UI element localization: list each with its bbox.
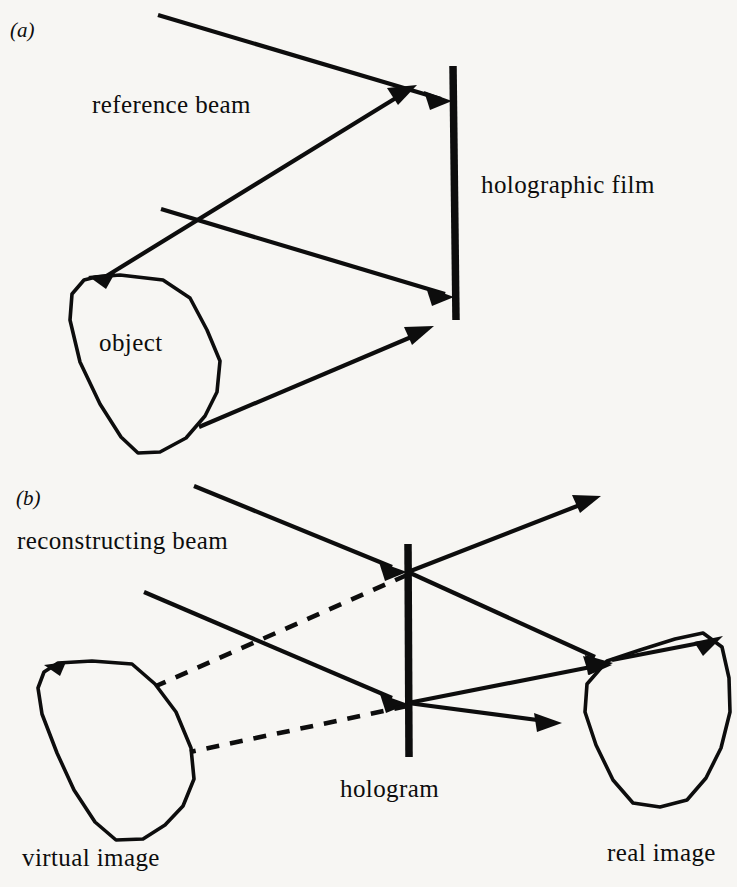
object-beam-upper-line (100, 93, 404, 280)
reconstructing-beam-lower-line (144, 592, 392, 698)
panel-a-graphics (70, 15, 456, 453)
real-image-beam-lower-arrowhead (534, 713, 562, 732)
virtual-image-label: virtual image (22, 845, 160, 870)
holography-figure: (a) reference beam holographic film obje… (0, 0, 737, 887)
panel-a-tag: (a) (10, 20, 35, 41)
object-label: object (99, 330, 162, 355)
hologram-label: hologram (340, 776, 439, 801)
virtual-image-outline (38, 661, 194, 840)
transmitted-beam-arrowhead (572, 495, 601, 513)
illumination-beam-arrowhead (426, 287, 454, 306)
real-image-outline (585, 633, 730, 807)
virtual-ray-upper (156, 575, 407, 686)
illumination-beam-line (161, 209, 445, 294)
reference-beam-label: reference beam (92, 92, 251, 117)
object-outline (70, 275, 220, 453)
holographic-film-plate (453, 66, 456, 320)
real-image-beam-lower-line (408, 703, 545, 721)
object-beam-lower-arrowhead (404, 326, 434, 345)
holographic-film-label: holographic film (481, 172, 655, 197)
object-beam-lower-line (199, 335, 416, 427)
diagram-canvas (0, 0, 737, 887)
hologram-plate (408, 544, 409, 757)
reference-beam-line (158, 15, 441, 99)
real-image-label: real image (607, 840, 716, 865)
virtual-ray-lower (190, 706, 407, 752)
reference-beam-arrowhead (424, 91, 452, 110)
reconstructing-beam-lower-arrowhead (380, 694, 408, 713)
real-image-beam-from-upper-line (408, 572, 595, 657)
real-image-beam-from-lower-line (408, 666, 596, 703)
transmitted-beam-line (408, 503, 585, 572)
panel-b-tag: (b) (16, 488, 41, 509)
reconstructing-beam-label: reconstructing beam (17, 528, 228, 553)
